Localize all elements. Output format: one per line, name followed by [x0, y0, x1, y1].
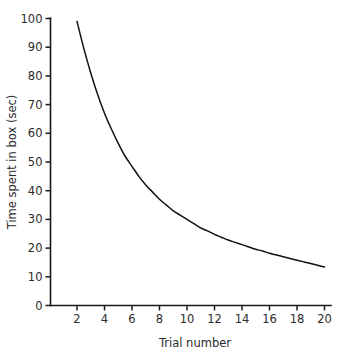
- x-tick-label-20: 20: [317, 312, 332, 326]
- x-tick-label-14: 14: [235, 312, 250, 326]
- y-tick-label-100: 100: [21, 12, 43, 26]
- x-tick-label-18: 18: [290, 312, 305, 326]
- y-tick-label-30: 30: [28, 212, 43, 226]
- data-curve-time-spent: [77, 21, 325, 267]
- line-chart: 0102030405060708090100 2468101214161820 …: [0, 0, 348, 361]
- x-axis-ticks: 2468101214161820: [73, 306, 331, 327]
- y-tick-label-0: 0: [35, 299, 42, 313]
- y-tick-label-20: 20: [28, 241, 43, 255]
- chart-container: 0102030405060708090100 2468101214161820 …: [0, 0, 348, 361]
- x-tick-label-10: 10: [180, 312, 195, 326]
- x-tick-label-12: 12: [207, 312, 222, 326]
- y-tick-label-80: 80: [28, 69, 43, 83]
- y-tick-label-50: 50: [28, 155, 43, 169]
- x-tick-label-4: 4: [101, 312, 108, 326]
- y-axis-title: Time spent in box (sec): [5, 95, 19, 231]
- y-tick-label-60: 60: [28, 126, 43, 140]
- x-tick-label-6: 6: [128, 312, 135, 326]
- y-tick-label-10: 10: [28, 270, 43, 284]
- y-axis-ticks: 0102030405060708090100: [21, 12, 51, 313]
- x-tick-label-2: 2: [73, 312, 80, 326]
- y-tick-label-40: 40: [28, 184, 43, 198]
- x-axis-title: Trial number: [158, 336, 231, 350]
- y-tick-label-90: 90: [28, 40, 43, 54]
- x-tick-label-16: 16: [262, 312, 277, 326]
- x-tick-label-8: 8: [156, 312, 163, 326]
- y-tick-label-70: 70: [28, 98, 43, 112]
